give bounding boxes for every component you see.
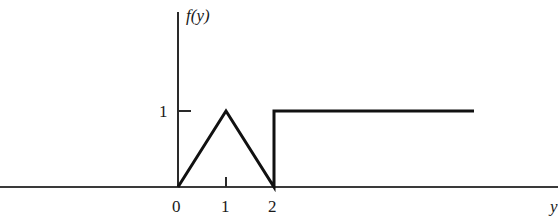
function-curve xyxy=(178,111,474,187)
x-axis-label: y xyxy=(548,197,558,216)
x-tick-label-1: 1 xyxy=(221,197,230,216)
y-axis-label: f(y) xyxy=(186,6,210,25)
y-tick-label-1: 1 xyxy=(159,102,168,121)
x-tick-label-0: 0 xyxy=(172,197,181,216)
x-tick-label-2: 2 xyxy=(268,197,277,216)
function-plot: f(y) 1 0 1 2 y xyxy=(0,0,558,220)
